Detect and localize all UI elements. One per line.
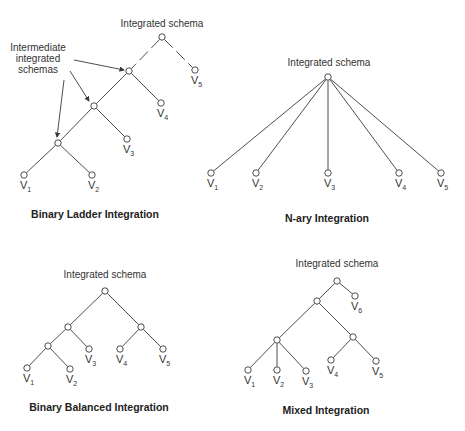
view-label: V5 (437, 177, 448, 191)
schema-node (91, 103, 97, 109)
tree-edge (250, 342, 275, 367)
tree-edge (319, 303, 350, 334)
integrated-schema-label: Integrated schema (288, 57, 371, 68)
schema-node (102, 288, 108, 294)
schema-node (126, 68, 132, 74)
schema-node (274, 337, 280, 343)
integrated-schema-label: Integrated schema (121, 18, 204, 29)
view-label: V5 (191, 74, 202, 88)
tree-edge (319, 283, 334, 298)
tree-edge (70, 293, 102, 325)
leaf-node (89, 172, 95, 178)
leaf-node (253, 170, 259, 176)
leaf-node (274, 367, 280, 373)
leaf-node (21, 172, 27, 178)
leaf-node (303, 368, 309, 374)
view-label: V2 (252, 177, 263, 191)
leaf-node (24, 365, 30, 371)
tree-edge (279, 303, 314, 338)
annotation-arrow (57, 80, 64, 137)
intermediate-schemas-annotation: integrated (16, 53, 60, 64)
tree-edge (26, 145, 55, 173)
view-label: V3 (324, 177, 335, 191)
panel-binary-balanced: V1V2V3V4V5Integrated schemaBinary Balanc… (23, 269, 170, 413)
view-label: V4 (116, 353, 127, 367)
tree-edge (131, 39, 160, 68)
schema-node (159, 34, 165, 40)
view-label: V6 (351, 300, 362, 314)
schema-integration-diagram: V1V2V3V4V5Integrated schemaIntermediatei… (0, 0, 465, 431)
tree-edge (96, 108, 124, 136)
leaf-node (245, 367, 251, 373)
tree-edge (339, 283, 352, 294)
view-label: V2 (273, 374, 284, 388)
tree-edge (330, 79, 438, 171)
view-label: V2 (88, 179, 99, 193)
schema-node (314, 298, 320, 304)
tree-edge (122, 329, 139, 346)
leaf-node (373, 358, 379, 364)
view-label: V1 (207, 177, 218, 191)
schema-node (65, 324, 71, 330)
annotation-arrow (70, 71, 89, 101)
leaf-node (208, 170, 214, 176)
integrated-schema-label: Integrated schema (296, 258, 379, 269)
schema-node (350, 334, 356, 340)
leaf-node (328, 357, 334, 363)
view-label: V3 (302, 375, 313, 389)
view-label: V3 (123, 143, 134, 157)
panel-title: Mixed Integration (283, 404, 370, 416)
view-label: V5 (159, 353, 170, 367)
leaf-node (438, 170, 444, 176)
tree-edge (50, 329, 65, 344)
tree-edge (70, 329, 87, 346)
leaf-node (192, 67, 198, 73)
intermediate-schemas-annotation: Intermediate (10, 42, 66, 53)
tree-edge (60, 145, 89, 173)
tree-edge (50, 348, 68, 366)
schema-node (45, 343, 51, 349)
leaf-node (352, 293, 358, 299)
schema-node (334, 278, 340, 284)
tree-edge (131, 73, 158, 100)
leaf-node (117, 346, 123, 352)
tree-edge (279, 342, 304, 368)
tree-edge (107, 293, 138, 324)
tree-edge (213, 79, 325, 171)
tree-edge (60, 108, 92, 140)
integrated-schema-label: Integrated schema (64, 269, 147, 280)
tree-edge (333, 339, 351, 357)
panel-binary-ladder: V1V2V3V4V5Integrated schemaIntermediatei… (10, 18, 204, 220)
view-label: V1 (20, 179, 31, 193)
leaf-node (396, 170, 402, 176)
tree-edge (29, 348, 46, 365)
annotation-arrow (74, 60, 124, 70)
tree-edge (164, 39, 192, 67)
view-label: V2 (66, 373, 77, 387)
panel-title: Binary Ladder Integration (31, 208, 159, 220)
view-label: V4 (327, 364, 338, 378)
leaf-node (124, 136, 130, 142)
panel-n-ary: V1V2V3V4V5Integrated schemaN-ary Integra… (207, 57, 448, 224)
leaf-node (86, 346, 92, 352)
leaf-node (158, 100, 164, 106)
view-label: V4 (395, 177, 406, 191)
tree-edge (355, 339, 374, 358)
intermediate-schemas-annotation: schemas (18, 64, 58, 75)
leaf-node (160, 346, 166, 352)
schema-node (325, 74, 331, 80)
schema-node (55, 140, 61, 146)
view-label: V4 (157, 107, 168, 121)
view-label: V5 (372, 365, 383, 379)
view-label: V1 (244, 374, 255, 388)
panel-mixed: V1V2V3V4V5V6Integrated schemaMixed Integ… (244, 258, 383, 416)
tree-edge (96, 73, 126, 103)
tree-edge (258, 80, 326, 171)
view-label: V3 (85, 353, 96, 367)
leaf-node (67, 366, 73, 372)
schema-node (138, 324, 144, 330)
view-label: V1 (23, 372, 34, 386)
tree-edge (143, 329, 160, 346)
panel-title: Binary Balanced Integration (29, 401, 168, 413)
tree-edge (330, 80, 397, 171)
